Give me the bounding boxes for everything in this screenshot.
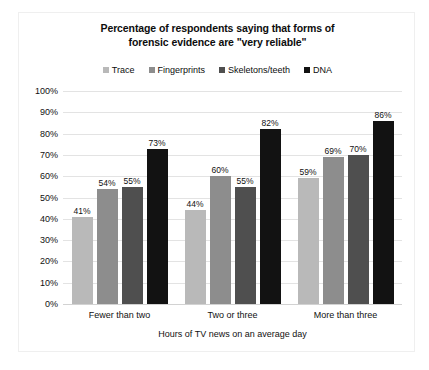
legend-item-trace[interactable]: Trace [103, 65, 135, 75]
chart-figure: Percentage of respondents saying that fo… [18, 12, 415, 352]
bar[interactable] [147, 149, 168, 304]
bar[interactable] [373, 121, 394, 304]
legend-swatch-icon [149, 67, 155, 73]
y-axis-tick-label: 50% [40, 193, 58, 203]
bar-value-label: 73% [148, 138, 165, 148]
bar-slot: 70% [348, 91, 369, 304]
plot-area: 100%90%80%70%60%50%40%30%20%10%0% 41%54%… [63, 91, 402, 304]
bar[interactable] [210, 176, 231, 304]
bar-slot: 69% [323, 91, 344, 304]
bar-value-label: 86% [374, 110, 391, 120]
bar[interactable] [298, 178, 319, 304]
bar-slot: 59% [298, 91, 319, 304]
chart-title-line-2: forensic evidence are "very reliable" [33, 35, 402, 49]
chart-title: Percentage of respondents saying that fo… [33, 21, 402, 49]
y-axis-tick-label: 70% [40, 150, 58, 160]
y-axis-tick-label: 60% [40, 171, 58, 181]
legend-item-dna[interactable]: DNA [304, 65, 332, 75]
bar-group: 59%69%70%86% [289, 91, 402, 304]
legend-label: Fingerprints [158, 65, 206, 75]
bar-slot: 55% [235, 91, 256, 304]
bar-slot: 73% [147, 91, 168, 304]
legend-item-fingerprints[interactable]: Fingerprints [149, 65, 206, 75]
bar-value-label: 59% [299, 167, 316, 177]
legend-label: Skeletons/teeth [228, 65, 290, 75]
legend-label: Trace [112, 65, 135, 75]
chart-legend: TraceFingerprintsSkeletons/teethDNA [33, 65, 402, 75]
bar-group-bars: 41%54%55%73% [63, 91, 176, 304]
bar[interactable] [235, 187, 256, 304]
bar[interactable] [122, 187, 143, 304]
bar-value-label: 41% [73, 206, 90, 216]
y-axis-tick-label: 40% [40, 214, 58, 224]
bar-value-label: 55% [123, 176, 140, 186]
legend-swatch-icon [103, 67, 109, 73]
bar[interactable] [185, 210, 206, 304]
y-axis-tick-label: 0% [45, 299, 58, 309]
bar-slot: 86% [373, 91, 394, 304]
bar-slot: 60% [210, 91, 231, 304]
bar[interactable] [72, 217, 93, 304]
bar[interactable] [348, 155, 369, 304]
bar-group: 41%54%55%73% [63, 91, 176, 304]
bar-groups: 41%54%55%73%44%60%55%82%59%69%70%86% [63, 91, 402, 304]
legend-swatch-icon [219, 67, 225, 73]
bar-group-bars: 44%60%55%82% [176, 91, 289, 304]
bar-slot: 44% [185, 91, 206, 304]
gridline-0: 0% [63, 304, 402, 305]
bar-value-label: 60% [211, 165, 228, 175]
category-label: More than three [289, 310, 402, 320]
bar-value-label: 69% [324, 146, 341, 156]
bar-slot: 82% [260, 91, 281, 304]
bar-value-label: 70% [349, 144, 366, 154]
category-label: Two or three [176, 310, 289, 320]
bar-value-label: 82% [261, 118, 278, 128]
legend-item-skeletons-teeth[interactable]: Skeletons/teeth [219, 65, 290, 75]
bar-value-label: 55% [236, 176, 253, 186]
bar-slot: 54% [97, 91, 118, 304]
bar[interactable] [260, 129, 281, 304]
y-axis-tick-label: 10% [40, 278, 58, 288]
category-axis-labels: Fewer than twoTwo or threeMore than thre… [63, 310, 402, 320]
legend-swatch-icon [304, 67, 310, 73]
bar[interactable] [323, 157, 344, 304]
y-axis-tick-label: 80% [40, 129, 58, 139]
bar-value-label: 44% [186, 199, 203, 209]
bar-value-label: 54% [98, 178, 115, 188]
bar[interactable] [97, 189, 118, 304]
y-axis-tick-label: 20% [40, 256, 58, 266]
legend-label: DNA [313, 65, 332, 75]
y-axis-tick-label: 100% [35, 86, 58, 96]
bar-slot: 41% [72, 91, 93, 304]
y-axis-tick-label: 30% [40, 235, 58, 245]
x-axis-title: Hours of TV news on an average day [63, 329, 402, 339]
y-axis-tick-label: 90% [40, 107, 58, 117]
bar-group: 44%60%55%82% [176, 91, 289, 304]
chart-title-line-1: Percentage of respondents saying that fo… [33, 21, 402, 35]
category-label: Fewer than two [63, 310, 176, 320]
bar-group-bars: 59%69%70%86% [289, 91, 402, 304]
bar-slot: 55% [122, 91, 143, 304]
